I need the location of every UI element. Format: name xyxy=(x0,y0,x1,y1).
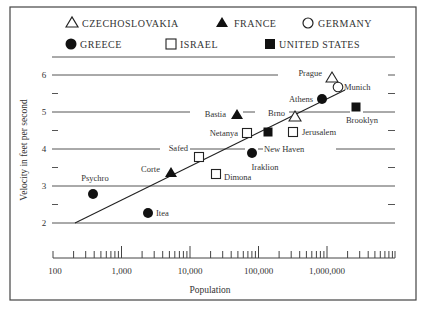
x-tick-label: 10,000 xyxy=(178,266,203,276)
data-points: Prague Brno Bastia Corte Munich Athens I… xyxy=(81,68,378,218)
legend-item-greece: GREECE xyxy=(66,39,122,51)
point-label: Safed xyxy=(169,143,189,153)
square-open-icon xyxy=(166,39,176,49)
point-label: Itea xyxy=(156,208,169,218)
point-label: Iraklion xyxy=(252,162,280,172)
legend-label: FRANCE xyxy=(234,18,276,29)
x-tick-label: 100 xyxy=(48,266,62,276)
point-label: Prague xyxy=(298,68,322,78)
circle-open-icon xyxy=(333,82,343,92)
point-brno: Brno xyxy=(268,108,301,121)
point-label: Dimona xyxy=(224,172,252,182)
legend-label: ISRAEL xyxy=(180,39,218,50)
circle-filled-icon xyxy=(317,94,327,104)
x-tick-label: 100,000 xyxy=(244,266,274,276)
chart: CZECHOSLOVAKIA FRANCE GERMANY GREECE ISR… xyxy=(0,0,426,311)
minor-y-ticks xyxy=(52,75,395,205)
point-label: Corte xyxy=(141,164,160,174)
legend-item-germany: GERMANY xyxy=(303,18,372,29)
y-tick-labels: 6 5 4 3 2 xyxy=(42,70,47,228)
square-filled-icon xyxy=(265,39,275,49)
triangle-open-icon xyxy=(66,17,78,27)
legend-item-israel: ISRAEL xyxy=(166,39,218,50)
point-bastia: Bastia xyxy=(205,109,243,119)
legend-item-united-states: UNITED STATES xyxy=(265,39,360,50)
triangle-filled-icon xyxy=(216,17,228,27)
point-itea: Itea xyxy=(143,208,169,218)
y-tick-label: 2 xyxy=(42,218,47,228)
point-prague: Prague xyxy=(298,68,338,82)
legend-label: CZECHOSLOVAKIA xyxy=(82,18,179,29)
point-label: Athens xyxy=(289,94,313,104)
square-filled-icon xyxy=(352,103,361,112)
y-tick-label: 3 xyxy=(42,181,47,191)
point-label: Jerusalem xyxy=(302,127,336,137)
square-open-icon xyxy=(243,129,252,138)
legend-label: UNITED STATES xyxy=(279,39,360,50)
y-tick-label: 4 xyxy=(42,144,47,154)
legend-item-france: FRANCE xyxy=(216,17,276,29)
x-axis xyxy=(53,246,395,258)
circle-open-icon xyxy=(303,18,313,28)
point-safed: Safed xyxy=(169,143,204,162)
square-open-icon xyxy=(289,128,298,137)
x-tick-label: 1,000,000 xyxy=(309,266,346,276)
y-axis-label: Velocity in feet per second xyxy=(19,99,29,201)
point-label: Bastia xyxy=(205,109,226,119)
point-athens: Athens xyxy=(289,94,327,104)
point-label: Psychro xyxy=(81,173,108,183)
x-tick-labels: 100 1,000 10,000 100,000 1,000,000 xyxy=(48,266,345,276)
legend-label: GERMANY xyxy=(318,18,372,29)
y-tick-label: 5 xyxy=(42,107,47,117)
point-label: Munich xyxy=(344,82,371,92)
x-tick-label: 1,000 xyxy=(111,266,132,276)
point-netanya: Netanya xyxy=(210,128,252,138)
circle-filled-icon xyxy=(247,148,257,158)
point-munich: Munich xyxy=(333,82,371,92)
circle-filled-icon xyxy=(88,189,98,199)
legend: CZECHOSLOVAKIA FRANCE GERMANY GREECE ISR… xyxy=(66,17,373,50)
y-tick-label: 6 xyxy=(42,70,47,80)
square-filled-icon xyxy=(264,128,273,137)
gridlines xyxy=(52,75,395,223)
point-label: Brno xyxy=(268,108,285,118)
point-label: Brooklyn xyxy=(346,115,379,125)
point-jerusalem: Jerusalem xyxy=(289,127,337,137)
x-axis-label: Population xyxy=(189,285,230,295)
point-label: New Haven xyxy=(264,144,305,154)
legend-item-czechoslovakia: CZECHOSLOVAKIA xyxy=(66,17,179,29)
point-label: Netanya xyxy=(210,128,239,138)
chart-frame xyxy=(10,7,416,300)
circle-filled-icon xyxy=(66,39,77,50)
point-dimona: Dimona xyxy=(212,170,252,183)
triangle-filled-icon xyxy=(231,109,243,119)
triangle-filled-icon xyxy=(165,167,177,177)
point-brooklyn: Brooklyn xyxy=(346,103,379,126)
circle-filled-icon xyxy=(143,208,153,218)
square-open-icon xyxy=(195,153,204,162)
point-corte: Corte xyxy=(141,164,177,177)
legend-label: GREECE xyxy=(80,39,122,50)
square-open-icon xyxy=(212,170,221,179)
triangle-open-icon xyxy=(326,72,338,82)
